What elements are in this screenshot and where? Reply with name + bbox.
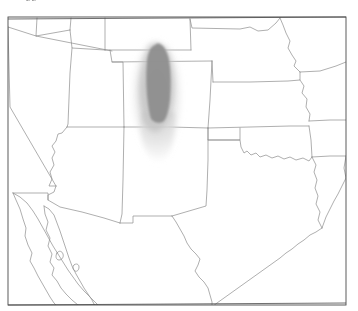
figure-page: pp xyxy=(0,0,358,311)
map-canvas xyxy=(0,0,358,311)
range-core xyxy=(146,44,170,123)
range-map-figure xyxy=(0,0,358,311)
